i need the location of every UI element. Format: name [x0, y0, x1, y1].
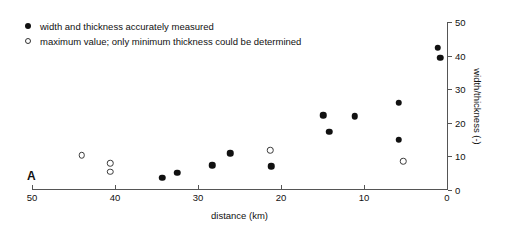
y-tick-label: 50: [455, 17, 466, 28]
data-point-filled: [174, 170, 181, 177]
data-point-filled: [435, 45, 442, 52]
y-tick: [448, 22, 452, 23]
x-tick-label: 40: [110, 192, 121, 203]
x-tick-label: 0: [444, 192, 449, 203]
data-point-open: [267, 147, 274, 154]
x-tick: [115, 185, 116, 189]
legend-item-open: maximum value; only minimum thickness co…: [22, 35, 352, 47]
y-tick: [448, 89, 452, 90]
legend-label-open: maximum value; only minimum thickness co…: [40, 36, 301, 47]
y-tick-label: 40: [455, 50, 466, 61]
y-tick: [448, 156, 452, 157]
y-axis-title-text: width/thickness (-): [472, 68, 483, 145]
x-tick: [32, 185, 33, 189]
data-point-filled: [396, 137, 403, 144]
data-point-filled: [396, 100, 403, 107]
y-axis-line: [447, 22, 448, 190]
data-point-filled: [320, 112, 327, 119]
data-point-open: [79, 152, 86, 159]
data-point-filled: [268, 163, 275, 170]
data-point-filled: [227, 150, 234, 157]
y-tick-label: 20: [455, 117, 466, 128]
x-tick-label: 50: [27, 192, 38, 203]
legend-item-filled: width and thickness accurately measured: [22, 20, 352, 32]
scatter-plot-figure: width and thickness accurately measured …: [0, 0, 521, 239]
x-axis-title: distance (km): [32, 210, 447, 221]
x-tick: [198, 185, 199, 189]
data-point-open: [400, 158, 407, 165]
legend-label-filled: width and thickness accurately measured: [40, 21, 214, 32]
y-tick: [448, 123, 452, 124]
x-tick-label: 10: [359, 192, 370, 203]
x-tick: [447, 185, 448, 189]
panel-label: A: [27, 169, 36, 183]
y-tick-label: 0: [455, 185, 460, 196]
filled-circle-icon: [22, 20, 34, 32]
chart-legend: width and thickness accurately measured …: [22, 20, 352, 50]
data-point-open: [107, 169, 114, 176]
y-axis-title: width/thickness (-): [470, 22, 484, 190]
y-tick: [448, 56, 452, 57]
data-point-filled: [326, 129, 333, 136]
x-axis-line: [32, 189, 447, 190]
x-tick: [364, 185, 365, 189]
x-tick: [281, 185, 282, 189]
y-tick: [448, 190, 452, 191]
data-point-open: [107, 160, 114, 167]
data-point-filled: [209, 162, 216, 169]
y-tick-label: 30: [455, 84, 466, 95]
x-tick-label: 20: [276, 192, 287, 203]
open-circle-icon: [22, 35, 34, 47]
y-tick-label: 10: [455, 151, 466, 162]
data-point-filled: [159, 175, 166, 182]
data-point-filled: [437, 55, 444, 62]
data-point-filled: [352, 113, 359, 120]
x-tick-label: 30: [193, 192, 204, 203]
